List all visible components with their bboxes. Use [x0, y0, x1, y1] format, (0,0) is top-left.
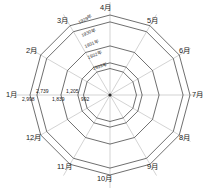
radar-chart: 4月 5月 6月 7月 8月 9月 10月 11月 12月 1月 2月 3月 1…: [0, 0, 215, 189]
radar-center-point: [108, 93, 111, 96]
axis-label-month-6: 6月: [179, 47, 190, 54]
axis-label-month-11: 11月: [57, 163, 72, 170]
value-tick-1205: 1,205: [66, 89, 79, 94]
value-tick-1839: 1,839: [52, 97, 65, 102]
value-tick-2739: 2,739: [36, 89, 49, 94]
axis-label-month-9: 9月: [147, 163, 158, 170]
value-tick-2998: 2,998: [22, 97, 35, 102]
axis-label-month-7: 7月: [192, 91, 203, 98]
axis-label-month-12: 12月: [26, 134, 41, 141]
axis-label-month-8: 8月: [179, 134, 190, 141]
axis-label-month-3: 3月: [57, 17, 68, 24]
axis-label-month-1: 1月: [6, 91, 17, 98]
axis-label-month-10: 10月: [97, 175, 112, 182]
value-tick-992: 992: [81, 97, 89, 102]
radar-chart-canvas: [0, 0, 215, 189]
axis-label-month-5: 5月: [147, 17, 158, 24]
axis-label-month-4: 4月: [100, 4, 111, 11]
axis-label-month-2: 2月: [26, 47, 37, 54]
